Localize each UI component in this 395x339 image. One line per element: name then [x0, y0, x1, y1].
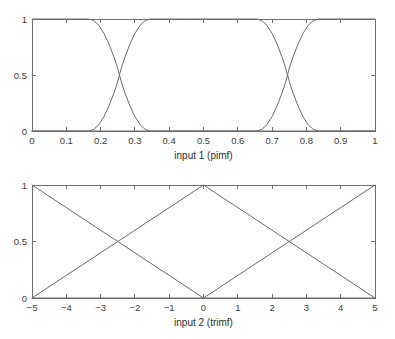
- x-axis-title-input2: input 2 (trimf): [174, 317, 233, 328]
- x-tick-label-input1-6: 0.6: [231, 135, 244, 146]
- mf-curve-pimf-high: [32, 19, 375, 131]
- x-tick-label-input1-1: 0.1: [60, 135, 73, 146]
- plot-panel-input2: −5−4−3−2−101234500.51input 2 (trimf): [0, 170, 395, 339]
- plot-panel-input1: 00.10.20.30.40.50.60.70.80.9100.51input …: [0, 0, 395, 170]
- x-tick-label-input1-10: 1: [372, 135, 377, 146]
- x-tick-label-input1-4: 0.4: [163, 135, 176, 146]
- x-tick-label-input2-7: 2: [269, 302, 274, 313]
- x-tick-label-input2-2: −3: [95, 302, 106, 313]
- x-tick-label-input2-8: 3: [304, 302, 309, 313]
- x-tick-label-input2-10: 5: [372, 302, 377, 313]
- x-tick-label-input2-1: −4: [61, 302, 72, 313]
- x-tick-label-input1-5: 0.5: [197, 135, 210, 146]
- y-tick-label-input2-1: 0.5: [14, 236, 27, 247]
- x-tick-label-input1-8: 0.8: [300, 135, 313, 146]
- x-tick-label-input2-5: 0: [201, 302, 206, 313]
- mf-curve-pimf-low: [32, 19, 375, 131]
- mf-curve-trimf-high: [32, 185, 375, 298]
- mf-curve-pimf-mid: [32, 19, 375, 131]
- x-tick-label-input2-4: −1: [164, 302, 175, 313]
- chart-input1: 00.10.20.30.40.50.60.70.80.9100.51input …: [0, 0, 395, 170]
- x-tick-label-input1-7: 0.7: [265, 135, 278, 146]
- x-tick-label-input1-0: 0: [29, 135, 34, 146]
- y-tick-label-input1-1: 0.5: [14, 70, 27, 81]
- x-tick-label-input1-3: 0.3: [128, 135, 141, 146]
- mf-curve-trimf-mid: [32, 185, 375, 298]
- x-tick-label-input1-9: 0.9: [334, 135, 347, 146]
- plot-box-input1: [32, 19, 375, 131]
- mf-curve-trimf-low: [32, 185, 375, 298]
- chart-input2: −5−4−3−2−101234500.51input 2 (trimf): [0, 170, 395, 339]
- x-tick-label-input2-6: 1: [235, 302, 240, 313]
- y-tick-label-input2-2: 1: [22, 180, 27, 191]
- y-tick-label-input1-0: 0: [22, 126, 27, 137]
- plot-box-input2: [32, 185, 375, 298]
- x-tick-label-input2-0: −5: [27, 302, 38, 313]
- y-tick-label-input2-0: 0: [22, 293, 27, 304]
- x-tick-label-input2-9: 4: [338, 302, 343, 313]
- y-tick-label-input1-2: 1: [22, 14, 27, 25]
- x-tick-label-input2-3: −2: [129, 302, 140, 313]
- membership-function-figure: 00.10.20.30.40.50.60.70.80.9100.51input …: [0, 0, 395, 339]
- x-tick-label-input1-2: 0.2: [94, 135, 107, 146]
- x-axis-title-input1: input 1 (pimf): [174, 150, 232, 161]
